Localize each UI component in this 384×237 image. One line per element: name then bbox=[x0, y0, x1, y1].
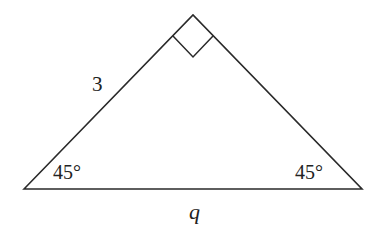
triangle-diagram: 3 45° 45° q bbox=[0, 0, 384, 237]
right-angle-marker bbox=[173, 36, 213, 57]
left-angle-label: 45° bbox=[53, 161, 81, 183]
leg-label: 3 bbox=[92, 72, 103, 96]
hypotenuse-label: q bbox=[189, 199, 200, 224]
right-angle-label: 45° bbox=[295, 161, 323, 183]
